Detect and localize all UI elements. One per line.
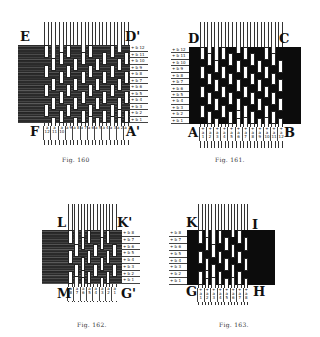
warp-float — [74, 264, 79, 278]
warp-column-label: a 4 — [101, 126, 108, 140]
warp-thread — [112, 204, 117, 230]
warp-float — [228, 73, 233, 86]
warp-column-label: a 11 — [50, 126, 57, 140]
corner-label-top-right: I — [252, 218, 258, 231]
corner-label-bottom-left: F — [30, 125, 39, 138]
warp-column-label: a 6 — [87, 126, 94, 140]
warp-float — [124, 110, 129, 123]
warp-float — [102, 91, 107, 104]
warp-float — [124, 52, 129, 65]
warp-float — [106, 250, 111, 264]
warp-float — [214, 79, 219, 92]
warp-float — [200, 105, 205, 118]
corner-label-top-left: D — [188, 32, 199, 45]
warp-float — [117, 97, 122, 110]
warp-float — [44, 45, 49, 58]
warp-thread — [74, 204, 79, 244]
warp-float — [243, 105, 248, 118]
warp-float — [117, 58, 122, 71]
warp-float — [218, 271, 223, 285]
warp-float — [68, 230, 73, 244]
weft-row-label: + b 1 — [122, 277, 140, 284]
warp-float — [73, 58, 78, 71]
warp-float — [271, 111, 276, 124]
warp-float — [59, 91, 64, 104]
warp-float — [81, 110, 86, 123]
warp-float — [207, 53, 212, 66]
corner-label-bottom-right: A' — [126, 125, 140, 138]
warp-float — [106, 271, 111, 285]
warp-column-label: + a 4 — [220, 127, 227, 141]
warp-float — [44, 104, 49, 117]
warp-thread — [221, 22, 226, 47]
weft-row-label: + b 8 — [169, 230, 187, 237]
warp-thread — [214, 22, 219, 60]
warp-float — [271, 73, 276, 86]
warp-float — [236, 60, 241, 73]
warp-float — [59, 110, 64, 123]
warp-float — [278, 60, 283, 73]
warp-column-label: + a 3 — [213, 127, 220, 141]
warp-float — [237, 230, 242, 244]
corner-label-bottom-right: G' — [121, 287, 136, 300]
warp-thread — [59, 22, 64, 52]
warp-float — [66, 84, 71, 97]
warp-column-label: + a 1 — [199, 127, 206, 141]
warp-float — [110, 45, 115, 58]
warp-float — [93, 264, 98, 278]
warp-float — [224, 258, 229, 272]
warp-column-label: a 3 — [109, 126, 116, 140]
warp-thread — [211, 204, 216, 244]
warp-float — [218, 251, 223, 265]
warp-column-label: + a 2 — [206, 127, 213, 141]
warp-float — [81, 52, 86, 65]
warp-float — [112, 244, 117, 258]
warp-thread — [244, 204, 249, 230]
corner-label-bottom-right: H — [253, 285, 265, 298]
warp-column-label: + a 10 — [263, 127, 270, 141]
warp-float — [124, 71, 129, 84]
caption-fig-161: Fig. 161. — [215, 156, 245, 163]
warp-float — [250, 53, 255, 66]
corner-label-top-right: C — [279, 32, 289, 45]
warp-column-label: a 9 — [65, 126, 72, 140]
warp-float — [243, 86, 248, 99]
warp-float — [59, 52, 64, 65]
warp-thread — [44, 22, 49, 45]
warp-thread — [224, 204, 229, 230]
corner-label-bottom-left: A — [188, 126, 198, 139]
weft-row-label: + b 6 — [169, 244, 187, 251]
warp-thread — [257, 22, 262, 47]
weft-row-label: + b 5 — [169, 251, 187, 258]
warp-thread — [95, 22, 100, 45]
weft-row-label: + b 4 — [169, 258, 187, 265]
warp-thread — [51, 22, 56, 58]
warp-float — [264, 105, 269, 118]
weft-row-label: + b 5 — [122, 250, 140, 257]
warp-float — [81, 237, 86, 251]
warp-column-label: + a 7 — [242, 127, 249, 141]
warp-float — [95, 97, 100, 110]
warp-float — [200, 66, 205, 79]
warp-float — [198, 230, 203, 244]
caption-fig-163: Fig. 163. — [219, 321, 249, 328]
warp-float — [236, 98, 241, 111]
warp-thread — [250, 22, 255, 47]
warp-column-label: + a 9 — [256, 127, 263, 141]
warp-float — [205, 237, 210, 251]
warp-column-label: + a 6 — [235, 127, 242, 141]
warp-column-label: a 8 — [72, 126, 79, 140]
warp-float — [81, 71, 86, 84]
warp-float — [51, 97, 56, 110]
warp-float — [221, 105, 226, 118]
warp-float — [200, 47, 205, 60]
warp-float — [236, 79, 241, 92]
warp-float — [59, 71, 64, 84]
warp-column-label: a 10 — [58, 126, 65, 140]
warp-float — [264, 86, 269, 99]
warp-float — [221, 47, 226, 60]
warp-float — [100, 257, 105, 271]
warp-thread — [66, 22, 71, 45]
warp-float — [100, 237, 105, 251]
caption-fig-160: Fig. 160 — [62, 156, 90, 163]
